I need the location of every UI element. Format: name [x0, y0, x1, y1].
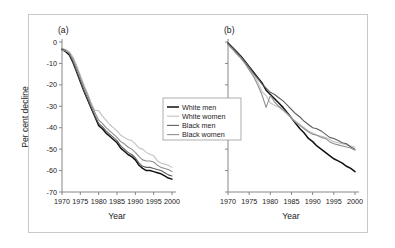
y-tick-label-2: -20: [47, 80, 57, 89]
chart-svg: (a)0-10-20-30-40-50-60-70197019751980198…: [0, 0, 395, 248]
x-tick-label-a-0: 1970: [54, 197, 70, 206]
y-tick-label-4: -40: [47, 123, 57, 132]
x-tick-label-a-4: 1990: [127, 197, 143, 206]
series-line-a-3: [62, 50, 172, 172]
series-line-b-0: [228, 43, 355, 172]
series-line-a-2: [62, 49, 172, 176]
x-tick-label-b-2: 1980: [262, 197, 278, 206]
x-tick-label-a-2: 1980: [91, 197, 107, 206]
x-tick-label-b-3: 1985: [284, 197, 300, 206]
y-tick-label-3: -30: [47, 102, 57, 111]
x-tick-label-a-1: 1975: [72, 197, 88, 206]
y-tick-label-1: -10: [47, 59, 57, 68]
y-tick-label-5: -50: [47, 145, 57, 154]
series-line-b-3: [228, 45, 355, 151]
x-tick-label-b-0: 1970: [220, 197, 236, 206]
series-line-b-1: [228, 45, 355, 147]
series-line-b-2: [228, 44, 355, 149]
legend-label-0: White men: [182, 103, 216, 112]
figure-container: (a)0-10-20-30-40-50-60-70197019751980198…: [0, 0, 395, 248]
panel-label-a: (a): [58, 25, 69, 35]
series-line-a-1: [62, 48, 172, 167]
x-tick-label-a-3: 1985: [109, 197, 125, 206]
y-axis-title: Per cent decline: [20, 86, 30, 148]
y-tick-label-7: -70: [47, 188, 57, 197]
legend-label-3: Black women: [182, 130, 225, 139]
x-tick-label-a-6: 2000: [164, 197, 180, 206]
x-axis-title-b: Year: [282, 211, 300, 221]
y-tick-label-0: 0: [53, 38, 57, 47]
x-tick-label-b-6: 2000: [347, 197, 363, 206]
x-axis-title-a: Year: [108, 211, 126, 221]
panel-label-b: (b): [224, 25, 235, 35]
x-tick-label-b-5: 1995: [326, 197, 342, 206]
legend-label-1: White women: [182, 112, 226, 121]
x-tick-label-b-1: 1975: [241, 197, 257, 206]
y-tick-label-6: -60: [47, 166, 57, 175]
x-tick-label-b-4: 1990: [305, 197, 321, 206]
x-tick-label-a-5: 1995: [146, 197, 162, 206]
legend-label-2: Black men: [182, 121, 216, 130]
